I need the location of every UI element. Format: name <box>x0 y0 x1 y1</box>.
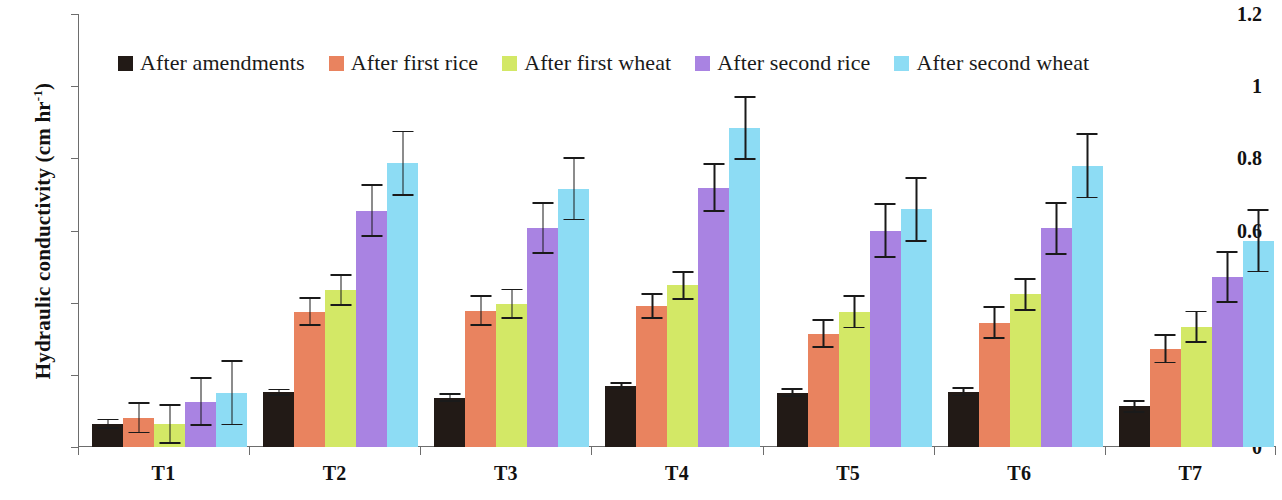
bar-wrapper <box>434 14 465 447</box>
bar[interactable] <box>605 386 636 447</box>
bar-wrapper <box>698 14 729 447</box>
bar[interactable] <box>356 211 387 447</box>
bar-wrapper <box>325 14 356 447</box>
bar-wrapper <box>636 14 667 447</box>
error-bar-cap-top <box>299 297 320 299</box>
bar-group-t2 <box>249 14 420 447</box>
error-bar-cap-top <box>128 402 149 404</box>
error-bar <box>1217 251 1238 303</box>
legend-swatch-icon <box>695 56 710 71</box>
error-bar-cap-top <box>221 360 242 362</box>
legend-label: After first rice <box>351 50 478 76</box>
legend-swatch-icon <box>118 56 133 71</box>
bar-wrapper <box>92 14 123 447</box>
legend-item[interactable]: After amendments <box>118 50 305 76</box>
bar[interactable] <box>1041 228 1072 447</box>
error-bar-cap-bottom <box>641 317 662 319</box>
bar-group-t1 <box>78 14 249 447</box>
error-bar-cap-top <box>159 404 180 406</box>
bar[interactable] <box>870 231 901 448</box>
error-bar-cap-bottom <box>268 394 289 396</box>
error-bar-cap-bottom <box>610 387 631 389</box>
bar[interactable] <box>636 306 667 447</box>
bar-wrapper <box>185 14 216 447</box>
bar[interactable] <box>465 311 496 447</box>
error-bar-cap-top <box>906 177 927 179</box>
error-bar-cap-bottom <box>984 337 1005 339</box>
bar[interactable] <box>1150 349 1181 447</box>
error-bar-cap-bottom <box>844 327 865 329</box>
error-bar <box>128 402 149 433</box>
bar[interactable] <box>294 312 325 447</box>
bar-wrapper <box>294 14 325 447</box>
bar[interactable] <box>808 334 839 447</box>
x-axis-tick <box>1105 447 1106 455</box>
bar[interactable] <box>558 189 589 447</box>
bar-wrapper <box>1010 14 1041 447</box>
bar-wrapper <box>356 14 387 447</box>
error-bar-cap-top <box>782 388 803 390</box>
bar[interactable] <box>1181 327 1212 447</box>
bar-wrapper <box>527 14 558 447</box>
y-axis-title-exponent: -1 <box>30 90 45 101</box>
bar[interactable] <box>777 393 808 447</box>
bar[interactable] <box>496 304 527 447</box>
error-bar-cap-bottom <box>563 219 584 221</box>
bar-wrapper <box>605 14 636 447</box>
bar-wrapper <box>1150 14 1181 447</box>
error-bar <box>906 177 927 242</box>
bar-wrapper <box>729 14 760 447</box>
error-bar <box>532 202 553 254</box>
error-bar-cap-top <box>1248 209 1269 211</box>
error-bar-stem <box>823 319 825 348</box>
bar[interactable] <box>527 228 558 447</box>
x-axis-label-t5: T5 <box>763 462 934 485</box>
error-bar-stem <box>200 377 202 426</box>
legend-item[interactable]: After second wheat <box>894 50 1089 76</box>
error-bar <box>953 387 974 396</box>
bar-wrapper <box>839 14 870 447</box>
bar[interactable] <box>948 392 979 447</box>
bar[interactable] <box>979 323 1010 447</box>
error-bar <box>221 360 242 426</box>
error-bar-cap-top <box>1077 133 1098 135</box>
legend-item[interactable]: After first wheat <box>502 50 671 76</box>
bar[interactable] <box>263 392 294 447</box>
error-bar <box>361 184 382 237</box>
error-bar <box>330 274 351 306</box>
bar-wrapper <box>387 14 418 447</box>
bar[interactable] <box>387 163 418 447</box>
bar[interactable] <box>667 285 698 447</box>
bar[interactable] <box>1072 166 1103 447</box>
error-bar-cap-bottom <box>672 298 693 300</box>
bar-groups <box>78 14 1276 447</box>
error-bar <box>190 377 211 426</box>
x-axis-tick <box>420 447 421 455</box>
bar[interactable] <box>434 398 465 447</box>
legend-item[interactable]: After second rice <box>695 50 870 76</box>
error-bar-stem <box>1165 334 1167 363</box>
bars <box>420 14 591 447</box>
legend-item[interactable]: After first rice <box>329 50 478 76</box>
error-bar <box>563 157 584 221</box>
error-bar-cap-top <box>190 377 211 379</box>
bar[interactable] <box>729 128 760 447</box>
error-bar-cap-bottom <box>1077 197 1098 199</box>
bars <box>763 14 934 447</box>
bar-wrapper <box>123 14 154 447</box>
error-bar-cap-bottom <box>470 324 491 326</box>
error-bar-stem <box>231 360 233 426</box>
bar-wrapper <box>465 14 496 447</box>
bar[interactable] <box>1010 294 1041 447</box>
error-bar <box>1124 400 1145 413</box>
error-bar-cap-top <box>330 274 351 276</box>
bar[interactable] <box>901 209 932 447</box>
bar[interactable] <box>839 312 870 447</box>
error-bar-cap-bottom <box>953 395 974 397</box>
error-bar-cap-top <box>641 293 662 295</box>
bar-group-t6 <box>934 14 1105 447</box>
bar[interactable] <box>325 290 356 447</box>
bar[interactable] <box>698 188 729 447</box>
error-bar-stem <box>340 274 342 306</box>
error-bar-cap-top <box>1186 311 1207 313</box>
